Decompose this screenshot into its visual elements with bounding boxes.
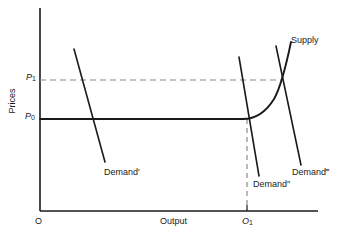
x-tick-label-o1: O1 [242, 217, 253, 226]
demand-prime-mark: ′ [138, 167, 140, 177]
supply-demand-figure: Prices P1 P0 O Output O1 Supply Demand′ … [0, 0, 345, 240]
demand-triple-prime-label-text: Demand [292, 167, 326, 177]
p0-subscript: 0 [31, 114, 35, 121]
o1-subscript: 1 [249, 219, 253, 226]
demand-double-prime-mark: ″ [287, 179, 290, 189]
x-axis-title: Output [160, 217, 187, 226]
demand-double-prime-label: Demand″ [253, 180, 290, 189]
demand-prime-label: Demand′ [104, 168, 140, 177]
y-tick-label-p0: P0 [25, 112, 35, 121]
y-axis-title: Prices [7, 76, 17, 126]
demand-triple-prime-label: Demand‴ [292, 168, 329, 177]
supply-curve-label: Supply [291, 36, 319, 45]
demand-triple-prime-curve [276, 46, 301, 165]
origin-label: O [35, 217, 42, 226]
o1-symbol: O [242, 216, 249, 226]
demand-triple-prime-mark: ‴ [326, 167, 329, 177]
demand-prime-curve [74, 49, 105, 162]
p1-subscript: 1 [32, 75, 36, 82]
demand-prime-label-text: Demand [104, 167, 138, 177]
demand-double-prime-label-text: Demand [253, 179, 287, 189]
y-tick-label-p1: P1 [26, 73, 36, 82]
